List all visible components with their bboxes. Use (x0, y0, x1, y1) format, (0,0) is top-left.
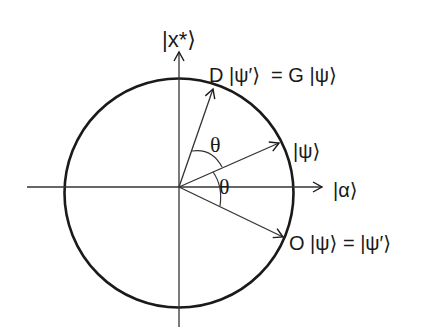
o-psi-label: O |ψ⟩ = |ψ′⟩ (289, 232, 391, 254)
grover-diagram: |x*⟩ D |ψ′⟩ = G |ψ⟩ |ψ⟩ |α⟩ O |ψ⟩ = |ψ′⟩… (0, 0, 432, 336)
theta-lower-label: θ (219, 174, 230, 199)
g-psi-vector (179, 89, 213, 187)
g-psi-label: D |ψ′⟩ = G |ψ⟩ (209, 64, 337, 86)
psi-label: |ψ⟩ (293, 140, 320, 162)
o-psi-vector (179, 187, 283, 237)
theta-upper-label: θ (210, 132, 221, 157)
horizontal-axis-label: |α⟩ (333, 179, 358, 201)
vertical-axis-label: |x*⟩ (162, 27, 196, 52)
